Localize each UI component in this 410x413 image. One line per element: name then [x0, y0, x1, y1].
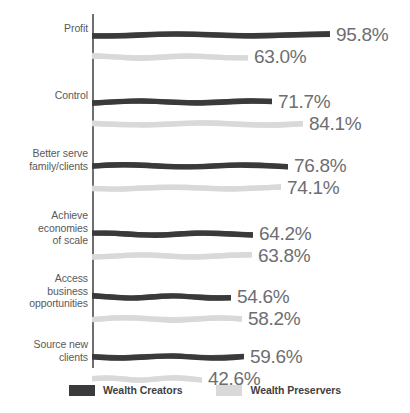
category-label-line: opportunities [0, 297, 88, 310]
value-label-wealth-creators: 59.6% [250, 347, 302, 366]
value-label-wealth-preservers: 58.2% [248, 309, 300, 328]
bar-wealth-creators [92, 348, 244, 366]
category-label-line: Access [0, 272, 88, 285]
category-label-line: Source new [0, 338, 88, 351]
category-label-line: economies [0, 222, 88, 235]
category-label-line: Better serve [0, 147, 88, 160]
value-label-wealth-preservers: 74.1% [287, 178, 339, 197]
legend-swatch-icon-wealth-creators [69, 385, 95, 396]
legend-label-wealth-preservers: Wealth Preservers [250, 384, 341, 396]
value-label-wealth-creators: 76.8% [294, 156, 346, 175]
category-label: Accessbusinessopportunities [0, 272, 88, 310]
plot-area: Profit95.8%63.0%Control71.7%84.1%Better … [0, 0, 410, 375]
category-label: Better servefamily/clients [0, 147, 88, 172]
value-label-wealth-preservers: 63.8% [258, 246, 310, 265]
bar-wealth-creators [92, 288, 231, 306]
value-label-wealth-preservers: 84.1% [309, 114, 361, 133]
value-label-wealth-preservers: 63.0% [254, 47, 306, 66]
chart-legend: Wealth Creators Wealth Preservers [0, 378, 410, 402]
legend-swatch-icon-wealth-preservers [216, 385, 242, 396]
category-label-line: family/clients [0, 160, 88, 173]
bar-wealth-creators [92, 93, 272, 111]
bar-wealth-preservers [92, 310, 242, 328]
value-label-wealth-creators: 64.2% [259, 224, 311, 243]
legend-item-wealth-preservers: Wealth Preservers [216, 384, 341, 396]
bar-wealth-creators [92, 26, 330, 44]
bar-wealth-preservers [92, 247, 252, 265]
bar-wealth-creators [92, 225, 253, 243]
category-label-line: clients [0, 351, 88, 364]
category-label-line: Control [0, 89, 88, 102]
value-label-wealth-creators: 95.8% [336, 25, 388, 44]
legend-item-wealth-creators: Wealth Creators [69, 384, 183, 396]
bar-wealth-preservers [92, 115, 303, 133]
category-label-line: business [0, 285, 88, 298]
category-label-line: Achieve [0, 209, 88, 222]
value-label-wealth-creators: 71.7% [278, 92, 330, 111]
category-label-line: of scale [0, 234, 88, 247]
bar-wealth-preservers [92, 179, 281, 197]
value-label-wealth-creators: 54.6% [237, 287, 289, 306]
bar-wealth-creators [92, 157, 288, 175]
category-label: Source newclients [0, 338, 88, 363]
horizontal-bar-chart: Profit95.8%63.0%Control71.7%84.1%Better … [0, 0, 410, 413]
category-label: Achieveeconomiesof scale [0, 209, 88, 247]
category-label-line: Profit [0, 22, 88, 35]
bar-wealth-preservers [92, 48, 248, 66]
category-label: Control [0, 89, 88, 102]
legend-label-wealth-creators: Wealth Creators [103, 384, 183, 396]
category-label: Profit [0, 22, 88, 35]
